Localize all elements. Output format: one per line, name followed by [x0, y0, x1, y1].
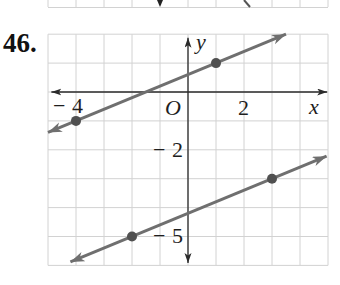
data-point [71, 116, 81, 126]
problem-number: 46. [3, 28, 37, 58]
previous-graph-line [244, 0, 250, 7]
plotted-line-2 [70, 156, 326, 262]
previous-axis-arrow-icon [157, 0, 163, 7]
axes [51, 38, 327, 263]
coordinate-graph: 46. y x O −4 2 −2 −5 [0, 0, 340, 285]
previous-graph-fragment [48, 0, 328, 8]
y-axis-label: y [194, 29, 206, 54]
x-tick-label-neg4: −4 [53, 93, 83, 118]
x-axis-label: x [308, 94, 319, 119]
x-tick-label-2: 2 [238, 95, 249, 120]
data-point [211, 58, 221, 68]
origin-label: O [165, 95, 181, 120]
data-point [267, 174, 277, 184]
data-point [127, 232, 137, 242]
plotted-lines [48, 34, 327, 262]
